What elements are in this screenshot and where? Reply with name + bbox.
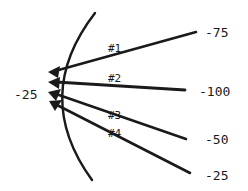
series-label-2: #2 xyxy=(108,73,121,84)
arrowhead-2-icon xyxy=(48,77,60,89)
right-axis-label-4: -25 xyxy=(205,169,228,182)
vector-line-1 xyxy=(55,32,196,71)
vector-line-4 xyxy=(57,105,190,173)
series-label-4: #4 xyxy=(108,128,121,139)
series-label-1: #1 xyxy=(108,43,121,54)
right-axis-label-1: -75 xyxy=(205,26,228,39)
arrowhead-1-icon xyxy=(48,66,60,78)
right-axis-label-3: -50 xyxy=(205,133,228,146)
vector-diagram-figure: -25 #1 #2 #3 #4 -75 -100 -50 -25 xyxy=(0,0,248,191)
right-axis-label-2: -100 xyxy=(199,85,230,98)
series-label-3: #3 xyxy=(108,110,121,121)
left-axis-label: -25 xyxy=(14,88,37,101)
